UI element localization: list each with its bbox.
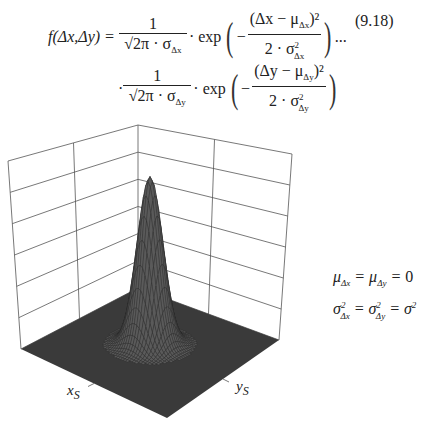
normalization-fraction-x: 1 √2π · σΔx <box>119 15 187 59</box>
equation-number: (9.18) <box>355 12 394 30</box>
left-paren: ( <box>231 69 238 109</box>
variance-condition: σ2Δx = σ2Δy = σ2 <box>333 300 416 321</box>
exponent-fraction-y: (Δy − μΔy)² 2 · σ2Δy <box>252 62 326 117</box>
y-axis-label: yS <box>236 378 249 399</box>
left-paren: ( <box>226 17 233 57</box>
mean-condition: μΔx = μΔy = 0 <box>333 268 413 288</box>
equation-line-1: f(Δx,Δy) = 1 √2π · σΔx · exp ( − (Δx − μ… <box>48 10 347 65</box>
right-paren: ) <box>329 69 336 109</box>
equation-lhs: f(Δx,Δy) = <box>48 28 115 46</box>
normalization-fraction-y: 1 √2π · σΔy <box>123 67 191 111</box>
right-paren: ) <box>324 17 331 57</box>
x-axis-label: xS <box>67 382 80 403</box>
equation-line-2: · 1 √2π · σΔy · exp ( − (Δy − μΔy)² 2 · … <box>118 62 339 117</box>
exponent-fraction-x: (Δx − μΔx)² 2 · σ2Δx <box>248 10 322 65</box>
